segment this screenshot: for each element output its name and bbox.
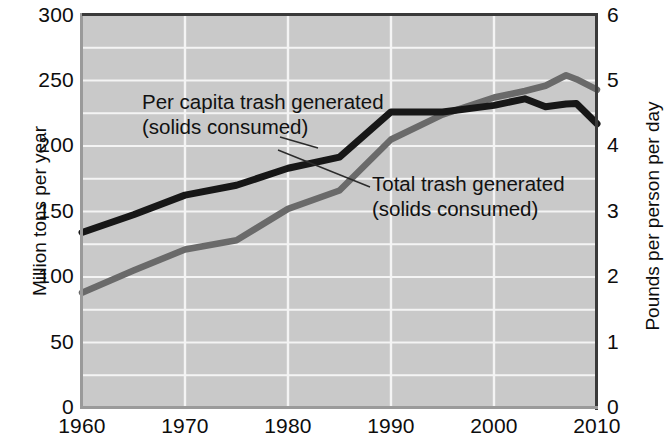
y-axis-label-left: Million tons per year xyxy=(29,61,51,361)
xtick-1990: 1990 xyxy=(336,414,446,438)
ytick-right-6: 6 xyxy=(607,3,619,27)
xtick-1980: 1980 xyxy=(233,414,343,438)
y-axis-label-right: Pounds per person per day xyxy=(642,66,664,366)
ytick-right-2: 2 xyxy=(607,264,619,288)
annotation-total-line2: (solids consumed) xyxy=(372,196,565,221)
annotation-total-trash: Total trash generated (solids consumed) xyxy=(372,171,565,221)
annotation-per-capita: Per capita trash generated (solids consu… xyxy=(142,89,384,139)
ytick-right-1: 1 xyxy=(607,330,619,354)
xtick-1960: 1960 xyxy=(27,414,137,438)
xtick-2000: 2000 xyxy=(439,414,549,438)
plot-left-edge xyxy=(80,13,83,409)
plot-top-edge xyxy=(82,13,598,16)
plot-right-edge xyxy=(595,13,598,410)
ytick-right-5: 5 xyxy=(607,68,619,92)
annotation-per-capita-line1: Per capita trash generated xyxy=(142,89,384,114)
plot-bottom-edge xyxy=(80,406,598,409)
annotation-total-line1: Total trash generated xyxy=(372,171,565,196)
ytick-right-4: 4 xyxy=(607,133,619,157)
ytick-right-3: 3 xyxy=(607,199,619,223)
ytick-left-300: 300 xyxy=(8,3,74,27)
annotation-per-capita-line2: (solids consumed) xyxy=(142,114,384,139)
xtick-2010: 2010 xyxy=(542,414,652,438)
xtick-1970: 1970 xyxy=(130,414,240,438)
